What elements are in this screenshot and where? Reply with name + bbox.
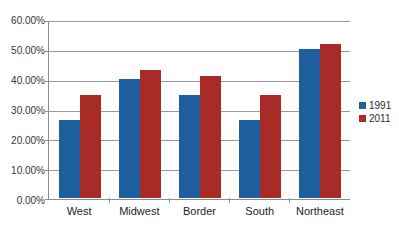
bar-group-south — [230, 21, 290, 198]
bar-midwest-1991 — [119, 79, 140, 198]
legend-item-2011: 2011 — [359, 112, 391, 125]
bar-group-midwest — [110, 21, 170, 198]
y-axis-tick-label: 60.00% — [11, 16, 45, 26]
bar-group-west — [50, 21, 110, 198]
y-axis-tick — [45, 170, 49, 171]
bar-midwest-2011 — [140, 70, 161, 198]
legend-swatch-icon — [359, 115, 366, 122]
y-axis-tick-label: 0.00% — [17, 196, 45, 206]
y-axis-tick — [45, 21, 49, 22]
y-axis-tick — [45, 111, 49, 112]
x-axis-category-label: Midwest — [109, 205, 169, 217]
y-axis-tick-label: 30.00% — [11, 106, 45, 116]
plot-area — [48, 21, 350, 200]
y-axis-tick — [45, 81, 49, 82]
bar-group-border — [170, 21, 230, 198]
x-axis-category-label: South — [230, 205, 290, 217]
y-axis-tick — [45, 199, 49, 200]
x-axis-tick — [169, 198, 170, 203]
bar-west-2011 — [80, 95, 101, 198]
y-axis-tick — [45, 140, 49, 141]
x-axis-labels: West Midwest Border South Northeast — [49, 205, 350, 217]
bar-border-2011 — [200, 76, 221, 198]
bar-south-2011 — [260, 95, 281, 198]
y-axis-tick-label: 20.00% — [11, 136, 45, 146]
x-axis-tick — [109, 198, 110, 203]
x-axis-category-label: Northeast — [290, 205, 350, 217]
bar-chart: 60.00% 50.00% 40.00% 30.00% 20.00% 10.00… — [0, 0, 399, 243]
x-axis-category-label: Border — [169, 205, 229, 217]
y-axis-tick-label: 10.00% — [11, 166, 45, 176]
legend-item-1991: 1991 — [359, 99, 391, 112]
bar-northeast-1991 — [299, 49, 320, 198]
bar-border-1991 — [179, 95, 200, 198]
x-axis-tick — [229, 198, 230, 203]
legend-swatch-icon — [359, 102, 366, 109]
legend-label: 1991 — [369, 101, 391, 111]
bar-group-northeast — [290, 21, 350, 198]
x-axis-tick — [289, 198, 290, 203]
y-axis-tick-label: 40.00% — [11, 76, 45, 86]
bar-west-1991 — [59, 120, 80, 199]
bar-groups — [50, 21, 350, 198]
y-axis-tick — [45, 51, 49, 52]
x-axis-category-label: West — [49, 205, 109, 217]
bar-northeast-2011 — [320, 44, 341, 198]
legend-label: 2011 — [369, 114, 391, 124]
y-axis-tick-label: 50.00% — [11, 46, 45, 56]
chart-legend: 1991 2011 — [359, 99, 391, 125]
bar-south-1991 — [239, 120, 260, 198]
